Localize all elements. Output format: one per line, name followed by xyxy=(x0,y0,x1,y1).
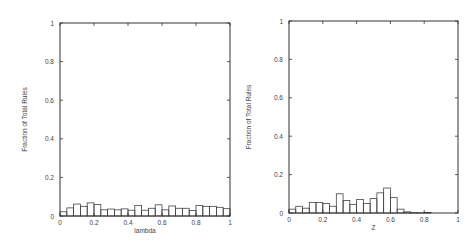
histogram-bar xyxy=(176,208,183,216)
x-tick-label: 0.2 xyxy=(318,216,327,223)
histogram-bar xyxy=(169,206,176,216)
histogram-bar xyxy=(330,206,337,213)
y-axis-label: Fraction of Total Rules xyxy=(21,86,28,151)
y-tick-label: 0.4 xyxy=(45,135,54,142)
histogram-bar xyxy=(101,210,108,216)
y-tick-label: 0.4 xyxy=(274,133,283,140)
histogram-bar xyxy=(162,210,169,216)
y-tick-label: 0 xyxy=(279,210,283,217)
x-tick-label: 0.2 xyxy=(89,219,98,226)
histogram-bar xyxy=(108,209,115,216)
histogram-bar xyxy=(210,206,217,216)
y-tick-label: 0.6 xyxy=(45,97,54,104)
histogram-bar xyxy=(60,212,67,216)
histogram-bar xyxy=(74,204,81,216)
y-tick-label: 0.8 xyxy=(45,58,54,65)
x-tick-label: 0.8 xyxy=(420,216,429,223)
histogram-bar xyxy=(377,193,384,213)
x-tick-label: 0.6 xyxy=(386,216,395,223)
histogram-bar xyxy=(336,194,343,213)
x-tick-label: 0 xyxy=(287,216,291,223)
y-axis-label: Fraction of Total Rules xyxy=(245,84,252,149)
histogram-bar xyxy=(182,208,189,216)
histogram-bar xyxy=(357,200,364,213)
histogram-bar xyxy=(363,203,370,213)
y-tick-label: 0.2 xyxy=(45,174,54,181)
histogram-bar xyxy=(128,210,135,216)
histogram-bar xyxy=(67,208,74,216)
histogram-bar xyxy=(142,210,149,216)
histogram-bar xyxy=(309,202,316,213)
histogram-bar xyxy=(216,207,223,216)
histogram-bar xyxy=(114,210,121,216)
histogram-bar xyxy=(196,205,203,216)
histogram-bar xyxy=(384,188,391,213)
histogram-bar xyxy=(303,208,310,213)
histogram-bars xyxy=(60,203,230,216)
y-tick-label: 0 xyxy=(50,213,54,220)
x-tick-label: 0 xyxy=(58,219,62,226)
histogram-bar xyxy=(316,202,323,213)
histogram-bar xyxy=(203,206,210,216)
histogram-bar xyxy=(80,206,87,216)
plot-frame xyxy=(60,23,230,216)
x-tick-label: 0.4 xyxy=(352,216,361,223)
histogram-bar xyxy=(87,203,94,216)
plot-frame xyxy=(289,21,458,213)
lambda-histogram-plot: 00.20.40.60.8100.20.40.60.81lambdaFracti… xyxy=(0,0,238,241)
histogram-bar xyxy=(289,209,296,213)
histogram-bar xyxy=(135,205,142,216)
y-tick-label: 0.2 xyxy=(274,171,283,178)
histogram-bar xyxy=(343,201,350,213)
histogram-bar xyxy=(296,206,303,213)
histogram-bar xyxy=(94,204,101,216)
x-tick-label: 0.8 xyxy=(191,219,200,226)
histogram-bar xyxy=(189,211,196,216)
histogram-bar xyxy=(323,203,330,213)
y-tick-label: 0.8 xyxy=(274,56,283,63)
z-histogram-plot: 00.20.40.60.8100.20.40.60.81ZFraction of… xyxy=(229,0,476,241)
histogram-bar xyxy=(155,205,162,216)
x-tick-label: 1 xyxy=(456,216,460,223)
histogram-bar xyxy=(370,199,377,213)
z-histogram: 00.20.40.60.8100.20.40.60.81ZFraction of… xyxy=(229,0,467,241)
histogram-bar xyxy=(121,209,128,216)
x-tick-label: 0.6 xyxy=(157,219,166,226)
x-axis-label: Z xyxy=(372,224,376,231)
histogram-bars xyxy=(289,188,431,213)
histogram-bar xyxy=(350,204,357,213)
x-tick-label: 0.4 xyxy=(123,219,132,226)
lambda-histogram: 00.20.40.60.8100.20.40.60.81lambdaFracti… xyxy=(0,0,238,241)
histogram-bar xyxy=(397,209,404,213)
y-tick-label: 0.6 xyxy=(274,94,283,101)
y-tick-label: 1 xyxy=(50,20,54,27)
y-tick-label: 1 xyxy=(279,18,283,25)
histogram-bar xyxy=(148,208,155,216)
histogram-bar xyxy=(390,198,397,213)
x-axis-label: lambda xyxy=(134,227,156,234)
